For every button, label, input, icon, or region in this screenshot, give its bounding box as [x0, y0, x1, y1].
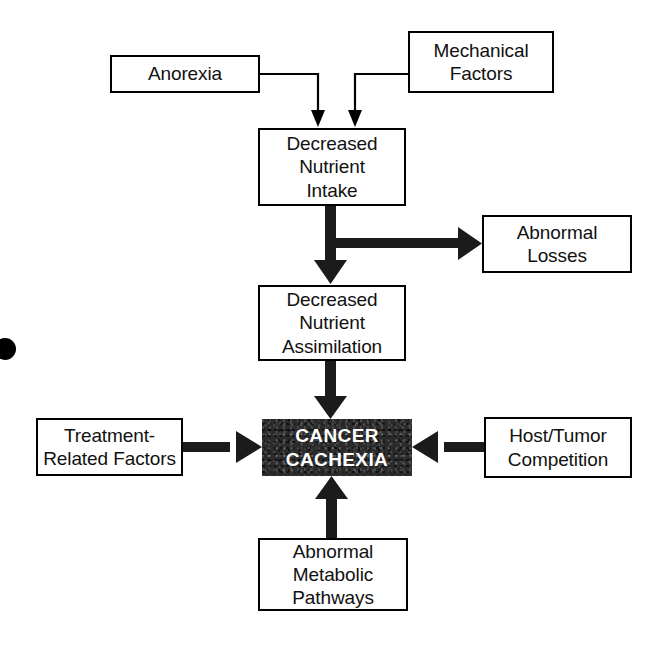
node-cancer-cachexia[interactable]: CANCER CACHEXIA: [262, 419, 412, 476]
node-decreased-nutrient-assimilation[interactable]: Decreased Nutrient Assimilation: [258, 285, 406, 361]
node-decreased-nutrient-intake-label: Decreased Nutrient Intake: [283, 132, 382, 202]
node-abnormal-losses[interactable]: Abnormal Losses: [482, 215, 632, 273]
node-decreased-nutrient-assimilation-label: Decreased Nutrient Assimilation: [278, 288, 386, 358]
node-abnormal-losses-label: Abnormal Losses: [513, 221, 602, 267]
edge-assimilation-to-cachexia: [314, 361, 347, 419]
node-anorexia-label: Anorexia: [144, 62, 226, 85]
node-host-tumor-competition-label: Host/Tumor Competition: [504, 424, 612, 470]
node-host-tumor-competition[interactable]: Host/Tumor Competition: [484, 417, 632, 478]
edge-treatment-to-cachexia: [183, 431, 262, 463]
edge-metabolic-to-cachexia: [315, 476, 348, 538]
node-abnormal-metabolic-pathways-label: Abnormal Metabolic Pathways: [288, 540, 378, 610]
edge-intake-to-assimilation: [314, 206, 347, 284]
node-anorexia[interactable]: Anorexia: [110, 55, 260, 93]
edge-intake-to-abnormal-losses: [330, 227, 482, 260]
node-mechanical-factors[interactable]: Mechanical Factors: [408, 31, 554, 93]
node-decreased-nutrient-intake[interactable]: Decreased Nutrient Intake: [258, 128, 406, 206]
diagram-canvas: Anorexia Mechanical Factors Decreased Nu…: [0, 0, 663, 647]
scan-blot-artifact: [0, 338, 16, 360]
edge-host-tumor-to-cachexia: [412, 431, 484, 463]
node-treatment-related-factors-label: Treatment- Related Factors: [39, 424, 180, 470]
node-mechanical-factors-label: Mechanical Factors: [429, 39, 532, 85]
edge-anorexia-to-intake: [260, 74, 325, 127]
node-treatment-related-factors[interactable]: Treatment- Related Factors: [36, 418, 183, 476]
edge-mechanical-to-intake: [348, 74, 408, 127]
node-abnormal-metabolic-pathways[interactable]: Abnormal Metabolic Pathways: [258, 538, 408, 611]
node-cancer-cachexia-label: CANCER CACHEXIA: [282, 424, 392, 470]
